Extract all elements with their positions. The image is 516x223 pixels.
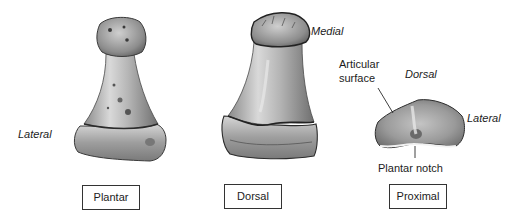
plantar-notch-label: Plantar notch	[378, 162, 443, 175]
dorsal-view-caption: Dorsal	[224, 184, 282, 209]
articular-surface-leader-line	[378, 88, 393, 113]
dorsal-medial-label: Medial	[311, 25, 343, 38]
plantar-head	[97, 17, 146, 56]
plantar-lateral-label: Lateral	[18, 128, 52, 141]
plantar-view-bone	[74, 17, 166, 161]
plantar-shaft	[84, 54, 158, 129]
proximal-articular-surface-shape	[375, 100, 464, 148]
proximal-view-bone	[375, 88, 464, 158]
dorsal-head	[251, 13, 309, 47]
articular-surface-label-line1: Articular	[339, 58, 379, 71]
proximal-dorsal-label: Dorsal	[405, 68, 437, 81]
proximal-view-caption: Proximal	[389, 184, 447, 209]
anatomy-figure: Lateral Medial Articular surface Dorsal …	[0, 0, 516, 223]
dorsal-view-bone	[222, 13, 317, 159]
dorsal-shaft	[228, 42, 314, 125]
articular-surface-label-line2: surface	[339, 72, 375, 85]
proximal-lateral-label: Lateral	[467, 112, 501, 125]
plantar-view-caption: Plantar	[82, 185, 140, 210]
